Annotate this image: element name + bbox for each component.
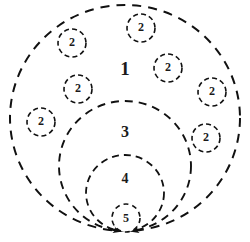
node-2-g: 2 <box>192 124 220 152</box>
region-labels-group: 134 <box>120 58 130 186</box>
node-2-f: 2 <box>27 108 55 136</box>
node-2-d: 2 <box>64 75 92 103</box>
region-5-label: 5 <box>123 211 129 225</box>
node-2-d-label: 2 <box>75 81 81 95</box>
region-5-node: 5 <box>112 204 140 232</box>
node-2-a: 2 <box>58 29 86 57</box>
node-2-e: 2 <box>198 78 226 106</box>
region-1-label: 1 <box>120 58 130 79</box>
node-2-c-label: 2 <box>165 60 171 74</box>
node-2-b: 2 <box>127 14 155 42</box>
node-2-g-label: 2 <box>203 130 209 144</box>
node-2-a-label: 2 <box>69 35 75 49</box>
region-3-label: 3 <box>121 123 129 140</box>
node-2-f-label: 2 <box>38 114 44 128</box>
node-2-e-label: 2 <box>209 84 215 98</box>
region-4-label: 4 <box>122 171 129 186</box>
node-2-b-label: 2 <box>138 20 144 34</box>
node-2-c: 2 <box>154 54 182 82</box>
nested-circles-diagram: 134 52222222 <box>0 0 250 242</box>
figure-canvas: 134 52222222 <box>0 0 250 242</box>
